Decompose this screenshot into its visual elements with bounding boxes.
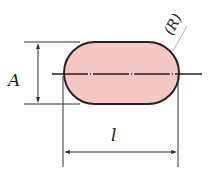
label-l: l xyxy=(111,125,116,145)
arrow-right-icon xyxy=(171,150,177,154)
obround-shape xyxy=(64,42,179,104)
arrow-left-icon xyxy=(64,150,70,154)
obround-diagram: A l (R) xyxy=(0,0,215,182)
label-a: A xyxy=(6,70,20,90)
arrow-down-icon xyxy=(36,97,40,103)
label-radius: (R) xyxy=(161,11,185,37)
arrow-up-icon xyxy=(36,43,40,49)
